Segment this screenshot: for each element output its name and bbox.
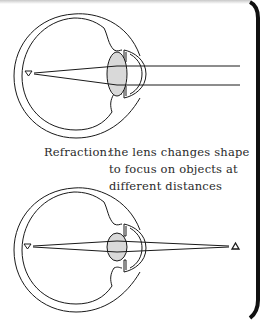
caption-line-3: different distances [44,178,250,195]
caption-label: Refraction: [44,144,109,161]
caption-line-2: to focus on objects at [44,161,250,178]
object-triangle-icon [232,243,239,249]
caption-line-1: the lens changes shape [109,145,250,159]
lens [107,233,127,261]
image-triangle-icon [24,244,31,249]
caption: Refraction:the lens changes shape to foc… [44,144,250,195]
